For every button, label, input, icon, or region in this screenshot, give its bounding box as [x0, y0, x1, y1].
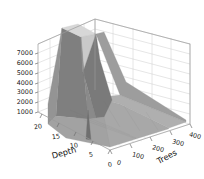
z-tick-label: 6000 — [17, 59, 33, 67]
pane-edge-top-right — [95, 19, 190, 44]
depth-tick-label: 15 — [51, 132, 60, 141]
depth-axis-label: Depth — [50, 144, 77, 160]
z-tick-label: 2000 — [17, 98, 33, 106]
z-tick-label: 5000 — [17, 69, 33, 77]
depth-tick-label: 5 — [88, 150, 93, 159]
z-tick-label: 3000 — [17, 88, 33, 96]
trees-tick-label: 100 — [131, 150, 145, 161]
figure-canvas: 7000 6000 5000 4000 3000 2000 1000 20 15… — [0, 0, 204, 179]
depth-tick-label: 0 — [107, 160, 112, 169]
z-tick-label: 7000 — [17, 49, 33, 57]
trees-tick-label: 400 — [188, 130, 202, 141]
z-axis-ticks: 7000 6000 5000 4000 3000 2000 1000 — [17, 49, 38, 116]
surface-plot-svg: 7000 6000 5000 4000 3000 2000 1000 20 15… — [0, 0, 204, 179]
z-tick-label: 1000 — [17, 108, 33, 116]
trees-tick-label: 0 — [116, 158, 122, 167]
z-tick-label: 4000 — [17, 79, 33, 87]
depth-tick-label: 20 — [33, 122, 42, 131]
